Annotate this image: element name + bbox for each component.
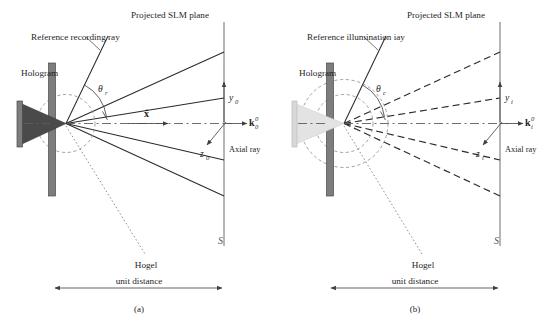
y-axis-symbol-a: y xyxy=(228,92,234,103)
angle-subscript-a: r xyxy=(105,89,108,96)
angle-subscript-b: c xyxy=(383,89,386,96)
figure-background xyxy=(0,0,559,329)
z-axis-symbol-b: z xyxy=(475,148,480,159)
axial-ray-label-a: Axial ray xyxy=(229,145,261,154)
viewer-plate-a xyxy=(17,101,23,147)
z-axis-symbol-a: z xyxy=(199,148,204,159)
wavevector-label-a: k 0 0 xyxy=(249,115,259,130)
figure-container: Projected SLM plane Reference recording … xyxy=(0,0,559,329)
hogel-label-b: Hogel xyxy=(412,260,435,270)
y-axis-subscript-b: i xyxy=(511,98,513,105)
slm-plane-title-b: Projected SLM plane xyxy=(407,10,485,20)
hologram-label-a: Hologram xyxy=(21,68,58,78)
reference-ray-label-a: Reference recording ray xyxy=(31,32,120,42)
y-axis-symbol-b: y xyxy=(504,92,510,103)
slm-plane-symbol-a: S xyxy=(218,235,223,246)
axial-ray-label-b: Axial ray xyxy=(505,145,537,154)
z-axis-subscript-b: i xyxy=(482,154,484,161)
illumination-plate-b xyxy=(292,101,297,147)
slm-plane-title-a: Projected SLM plane xyxy=(131,10,209,20)
hologram-label-b: Hologram xyxy=(299,68,336,78)
hogel-label-a: Hogel xyxy=(135,260,158,270)
wavevector-subscript-b: i xyxy=(531,123,533,130)
unit-distance-label-b: unit distance xyxy=(392,276,439,286)
reference-ray-label-b: Reference illumination iay xyxy=(307,32,405,42)
panel-caption-b: (b) xyxy=(410,304,421,314)
unit-vector-label-a: x̂ xyxy=(144,108,149,119)
unit-distance-label-a: unit distance xyxy=(116,276,163,286)
panel-caption-a: (a) xyxy=(134,304,144,314)
angle-symbol-a: θ xyxy=(98,83,103,94)
slm-plane-symbol-b: S xyxy=(494,235,499,246)
angle-symbol-b: θ xyxy=(376,83,381,94)
